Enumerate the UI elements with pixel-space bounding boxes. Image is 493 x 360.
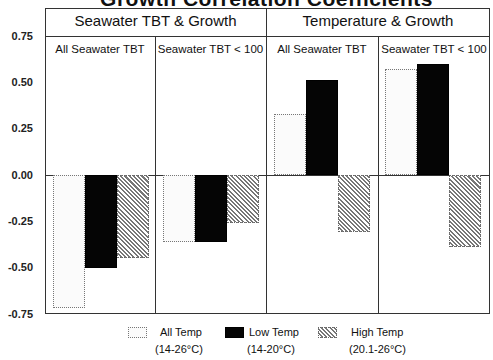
panel-label: Seawater TBT < 100 [155, 43, 266, 55]
bar-low-temp [195, 175, 227, 242]
bar-all-temp [274, 114, 306, 175]
bar-high-temp [117, 175, 149, 258]
y-tick: 0.25 [0, 122, 33, 134]
bar-low-temp [306, 80, 338, 175]
y-tick: -0.50 [0, 261, 33, 273]
legend-label-low-temp: Low Temp [249, 326, 299, 338]
bar-all-temp [53, 175, 85, 308]
y-tick: 0.00 [0, 169, 33, 181]
y-tick: -0.75 [0, 308, 33, 320]
panel-label: Seawater TBT < 100 [378, 43, 490, 55]
bar-low-temp [85, 175, 117, 268]
legend-label-all-temp: All Temp [160, 326, 202, 338]
bar-low-temp [417, 64, 449, 175]
panel-label: All Seawater TBT [266, 43, 378, 55]
legend-range-all-temp: (14-26°C) [155, 343, 203, 355]
legend-swatch-low-temp [225, 327, 244, 338]
y-tick: -0.25 [0, 215, 33, 227]
y-tick: 0.50 [0, 76, 33, 88]
legend-swatch-high-temp [318, 327, 337, 338]
y-tick: 0.75 [0, 30, 33, 42]
panel-label: All Seawater TBT [45, 43, 155, 55]
group-label-seawater: Seawater TBT & Growth [45, 12, 266, 29]
legend-range-low-temp: (14-20°C) [247, 343, 295, 355]
group-label-temperature: Temperature & Growth [266, 12, 490, 29]
bar-high-temp [338, 175, 370, 232]
legend-swatch-all-temp [128, 327, 147, 338]
bar-high-temp [449, 175, 481, 247]
bar-all-temp [385, 69, 417, 175]
bar-high-temp [227, 175, 259, 223]
legend-label-high-temp: High Temp [351, 326, 403, 338]
legend-range-high-temp: (20.1-26°C) [349, 343, 406, 355]
header-divider [45, 36, 490, 37]
bar-all-temp [163, 175, 195, 242]
